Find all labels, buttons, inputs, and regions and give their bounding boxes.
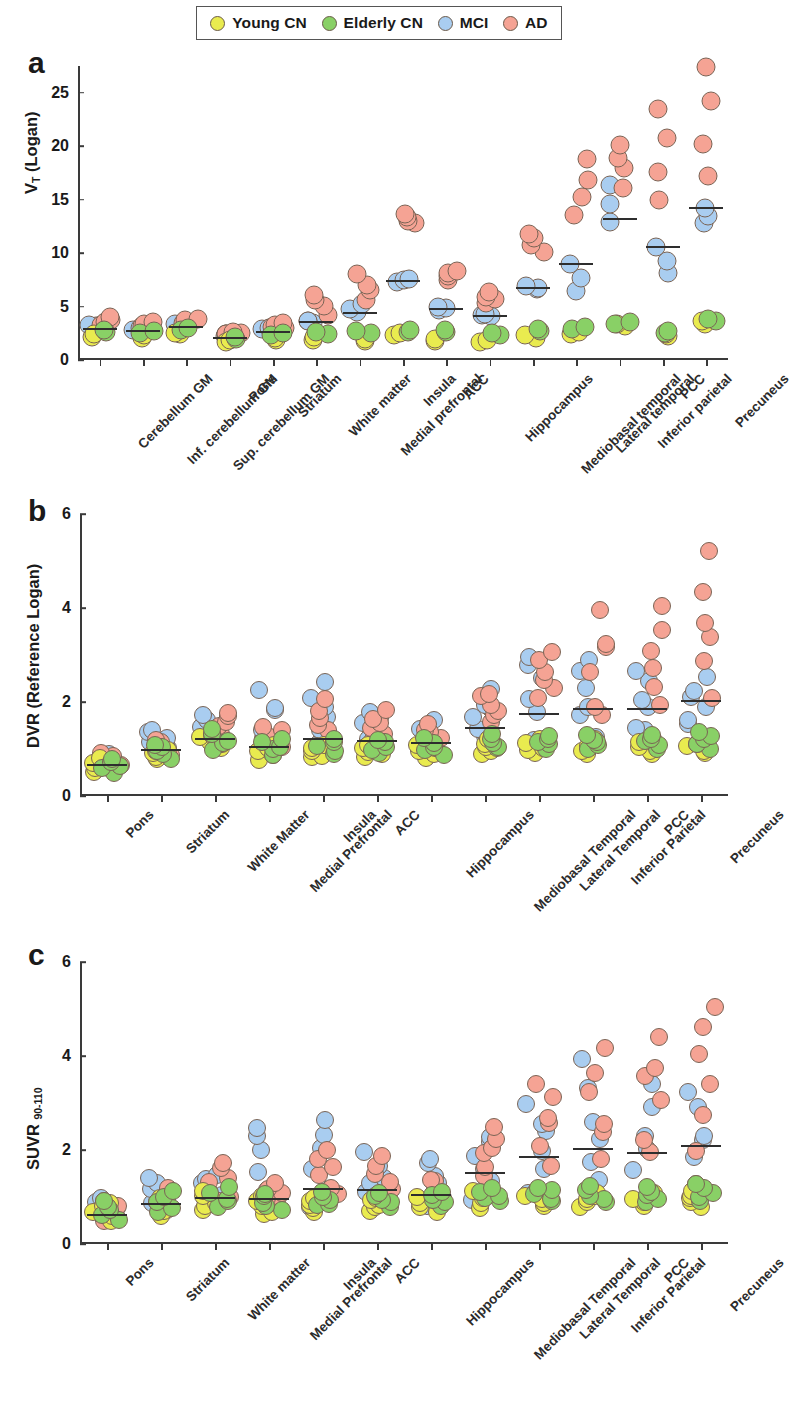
data-point-c-8-ad — [527, 1075, 545, 1093]
x-axis-b — [80, 794, 728, 796]
data-point-c-8-ecn — [529, 1179, 547, 1197]
x-axis-label-b-1: Striatum — [183, 807, 232, 856]
y-tick-mark-b-1 — [80, 701, 86, 703]
data-point-c-2-ad — [214, 1154, 232, 1172]
data-point-b-10-ad — [653, 621, 671, 639]
data-point-b-6-ecn — [415, 729, 433, 747]
x-axis-label-a-14: Precuneus — [733, 371, 792, 430]
y-axis-a — [78, 66, 80, 360]
x-tick-mark-b-7 — [485, 796, 487, 802]
data-point-c-4-ad — [318, 1141, 336, 1159]
x-tick-mark-b-9 — [593, 796, 595, 802]
data-point-a-5-ad — [304, 285, 323, 304]
data-point-c-7-ad — [485, 1118, 503, 1136]
data-point-c-10-ad — [650, 1028, 668, 1046]
data-point-c-1-mci — [140, 1169, 158, 1187]
x-tick-mark-b-6 — [431, 796, 433, 802]
panel-b: b 0246DVR (Reference Logan)PonsStriatumW… — [0, 490, 739, 934]
mean-line-a-0 — [83, 328, 117, 330]
legend-marker-young_cn-icon — [210, 16, 225, 31]
y-tick-label-a-4: 20 — [51, 137, 78, 155]
data-point-b-11-ecn — [690, 723, 708, 741]
mean-line-a-1 — [126, 330, 160, 332]
x-tick-mark-a-10 — [533, 360, 535, 366]
data-point-c-1-ecn — [164, 1182, 182, 1200]
data-point-b-10-ecn — [643, 726, 661, 744]
x-axis-label-b-11: Precuneus — [727, 807, 786, 866]
x-axis-label-c-6: Hippocampus — [463, 1255, 537, 1329]
mean-line-b-7 — [465, 727, 505, 729]
x-axis-label-a-9: Hippocampus — [522, 371, 596, 445]
x-tick-mark-a-12 — [620, 360, 622, 366]
panel-a: a 0510152025VT (Logan)Cerebellum GMInf. … — [0, 44, 739, 490]
x-tick-mark-b-11 — [701, 796, 703, 802]
panel-c-letter: c — [28, 940, 45, 970]
mean-line-c-8 — [519, 1156, 559, 1158]
x-axis-label-a-5: White matter — [346, 371, 414, 439]
y-tick-mark-a-5 — [78, 92, 84, 94]
data-point-b-2-ecn — [203, 720, 221, 738]
data-point-c-8-ad — [539, 1109, 557, 1127]
data-point-b-2-ad — [219, 704, 237, 722]
panel-c: c 0246SUVR 90-110PonsStriatumWhite matte… — [0, 934, 739, 1412]
y-tick-label-c-0: 0 — [62, 1235, 80, 1253]
data-point-b-4-mci — [316, 673, 334, 691]
plot-area-b: 0246 — [80, 514, 728, 796]
x-axis-label-c-5: ACC — [392, 1255, 423, 1286]
data-point-a-12-mci — [600, 194, 619, 213]
x-tick-mark-b-0 — [107, 796, 109, 802]
data-point-a-12-ecn — [620, 312, 639, 331]
mean-line-b-10 — [627, 708, 667, 710]
mean-line-a-6 — [343, 312, 377, 314]
mean-line-b-5 — [357, 740, 397, 742]
mean-line-b-11 — [681, 700, 721, 702]
legend-marker-mci-icon — [438, 16, 453, 31]
x-tick-mark-a-14 — [706, 360, 708, 366]
data-point-b-3-mci — [250, 681, 268, 699]
data-point-b-11-ad — [694, 583, 712, 601]
x-tick-mark-b-10 — [647, 796, 649, 802]
x-axis-label-c-2: White matter — [245, 1255, 313, 1323]
mean-line-a-4 — [256, 331, 290, 333]
x-tick-mark-a-2 — [186, 360, 188, 366]
legend-label-ad: AD — [525, 14, 548, 32]
panel-a-letter: a — [28, 48, 45, 78]
data-point-a-12-mci — [600, 212, 619, 231]
data-point-c-11-ad — [694, 1018, 712, 1036]
data-point-a-7-ecn — [401, 321, 420, 340]
x-axis-label-c-0: Pons — [123, 1255, 157, 1289]
y-tick-label-b-0: 0 — [62, 787, 80, 805]
mean-line-c-1 — [141, 1203, 181, 1205]
data-point-c-11-ecn — [687, 1175, 705, 1193]
data-point-b-8-ad — [543, 643, 561, 661]
data-point-b-7-ad — [480, 685, 498, 703]
y-tick-label-b-3: 6 — [62, 505, 80, 523]
y-tick-mark-b-3 — [80, 513, 86, 515]
data-point-b-8-ecn — [540, 727, 558, 745]
data-point-c-6-mci — [421, 1150, 439, 1168]
x-axis-label-a-10: Mediobasal temporal — [578, 371, 684, 477]
x-tick-mark-c-9 — [593, 1244, 595, 1250]
data-point-a-11-ad — [573, 188, 592, 207]
x-axis-label-a-8: ACC — [461, 371, 492, 402]
mean-line-c-5 — [357, 1189, 397, 1191]
data-point-a-9-ecn — [483, 324, 502, 343]
data-point-c-2-ecn — [201, 1184, 219, 1202]
plot-area-c: 0246 — [80, 962, 728, 1244]
x-axis-c — [80, 1242, 728, 1244]
x-axis-label-b-2: White Matter — [245, 807, 313, 875]
data-point-c-10-ad — [635, 1131, 653, 1149]
y-tick-label-b-1: 2 — [62, 693, 80, 711]
y-axis-c — [80, 962, 82, 1244]
y-tick-label-a-5: 25 — [51, 84, 78, 102]
mean-line-b-9 — [573, 708, 613, 710]
data-point-a-0-ecn — [95, 321, 114, 340]
data-point-c-11-mci — [679, 1083, 697, 1101]
data-point-a-7-mci — [399, 269, 418, 288]
mean-line-c-3 — [249, 1198, 289, 1200]
x-tick-mark-a-8 — [446, 360, 448, 366]
data-point-a-14-ad — [693, 134, 712, 153]
mean-line-c-7 — [465, 1172, 505, 1174]
mean-line-a-14 — [689, 207, 723, 209]
x-tick-mark-a-9 — [490, 360, 492, 366]
